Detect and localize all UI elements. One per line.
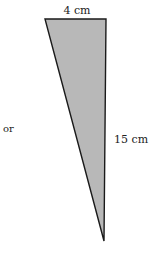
side-dimension-label: 15 cm [114,133,149,146]
shaded-triangle [45,19,106,241]
triangle-diagram: 4 cm 15 cm or [0,0,163,254]
top-dimension-label: 4 cm [63,4,91,17]
or-label: or [3,123,14,134]
